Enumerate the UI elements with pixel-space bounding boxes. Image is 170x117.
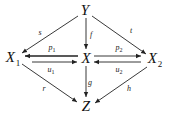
edge-label-s: s (38, 29, 41, 37)
edge-label-p2: p2 (116, 44, 123, 53)
edge-s-text: s (38, 28, 41, 37)
edge-u2-sub: 2 (120, 69, 123, 75)
edge-label-p1: p1 (49, 44, 56, 53)
edge-t-text: t (130, 26, 132, 35)
node-X2: X2 (148, 51, 163, 69)
edge-label-g: g (88, 79, 92, 87)
node-X1-label: X (6, 49, 15, 65)
node-Z-label: Z (82, 98, 90, 114)
edge-p1-sub: 1 (53, 47, 56, 53)
commutative-diagram: Y X1 X X2 Z s f t p1 u1 p2 u2 r g h (0, 0, 170, 117)
node-X1: X1 (6, 50, 21, 68)
edge-f-text: f (90, 30, 92, 39)
node-Y: Y (81, 3, 89, 18)
edge-h-text: h (127, 84, 131, 93)
node-X2-label: X (148, 50, 157, 66)
edge-label-h: h (127, 85, 131, 93)
edge-label-u1: u1 (48, 66, 55, 75)
edge-label-f: f (90, 31, 92, 39)
edge-r-text: r (42, 84, 45, 93)
node-X2-sub: 2 (158, 59, 163, 69)
node-X-label: X (81, 50, 90, 66)
edge-label-r: r (42, 85, 45, 93)
node-Y-label: Y (81, 2, 89, 18)
edge-u1-sub: 1 (52, 69, 55, 75)
edge-g-text: g (88, 78, 92, 87)
node-Z: Z (82, 99, 90, 114)
node-X: X (81, 51, 90, 66)
edge-label-u2: u2 (116, 66, 123, 75)
node-X1-sub: 1 (16, 58, 21, 68)
edge-label-t: t (130, 27, 132, 35)
edge-p2-sub: 2 (120, 47, 123, 53)
